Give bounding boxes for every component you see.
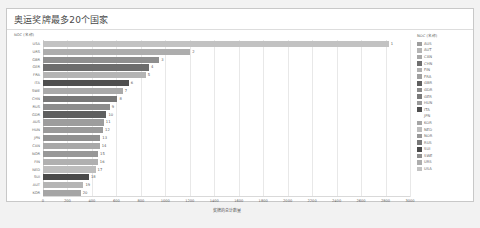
- legend-item[interactable]: NOR: [417, 133, 473, 140]
- bar-value-label: 14: [100, 144, 107, 148]
- y-tick-label: AUT: [33, 183, 40, 187]
- bar[interactable]: [43, 143, 100, 149]
- legend-item[interactable]: AUT: [417, 47, 473, 54]
- bar-row[interactable]: GER4: [43, 64, 410, 70]
- bar[interactable]: [43, 104, 110, 110]
- bar[interactable]: [43, 127, 103, 133]
- legend-items: AUSAUTCANCHNFINFRAGBRGDRGERHUNITAJPNKORN…: [417, 41, 473, 173]
- bar-row[interactable]: URS2: [43, 49, 410, 55]
- legend-item[interactable]: AUS: [417, 41, 473, 48]
- bar-value-label: 18: [89, 175, 96, 179]
- legend-item[interactable]: GER: [417, 93, 473, 100]
- bar-value-label: 1: [389, 42, 393, 46]
- bar-value-label: 17: [96, 168, 103, 172]
- bar-row[interactable]: CHN8: [43, 96, 410, 102]
- legend-item[interactable]: ITA: [417, 106, 473, 113]
- bar-row[interactable]: SUI18: [43, 174, 410, 180]
- legend-item[interactable]: CAN: [417, 54, 473, 61]
- legend-item-label: SUI: [424, 147, 430, 151]
- legend-item[interactable]: RUS: [417, 139, 473, 146]
- x-tick-label: 600: [113, 199, 120, 203]
- bar-row[interactable]: NED17: [43, 166, 410, 172]
- legend-item[interactable]: KOR: [417, 120, 473, 127]
- legend-swatch-icon: [417, 167, 422, 172]
- legend-item[interactable]: FRA: [417, 73, 473, 80]
- bar-row[interactable]: AUS11: [43, 119, 410, 125]
- y-tick-label: AUS: [33, 120, 40, 124]
- x-tick-label: 1800: [259, 199, 268, 203]
- legend-item[interactable]: SUI: [417, 146, 473, 153]
- bar-row[interactable]: FIN16: [43, 159, 410, 165]
- bar[interactable]: [43, 49, 190, 55]
- bar[interactable]: [43, 182, 83, 188]
- legend-item-label: JPN: [424, 114, 430, 118]
- legend-item-label: AUT: [424, 48, 431, 52]
- legend-item[interactable]: GDR: [417, 87, 473, 94]
- bar-row[interactable]: GDR10: [43, 111, 410, 117]
- bar-value-label: 16: [98, 160, 105, 164]
- legend-item[interactable]: NED: [417, 126, 473, 133]
- legend-item-label: GER: [424, 95, 432, 99]
- legend-swatch-icon: [417, 81, 422, 86]
- legend-item[interactable]: JPN: [417, 113, 473, 120]
- legend-swatch-icon: [417, 42, 422, 47]
- bar[interactable]: [43, 96, 117, 102]
- x-axis-ticks: 0200400600800100012001400160018002000220…: [43, 199, 410, 207]
- legend-item[interactable]: URS: [417, 159, 473, 166]
- y-tick-label: CHN: [32, 97, 40, 101]
- legend-item-label: FIN: [424, 68, 430, 72]
- legend-item-label: FRA: [424, 75, 431, 79]
- legend-item[interactable]: USA: [417, 166, 473, 173]
- bar[interactable]: [43, 72, 146, 78]
- y-tick-label: CAN: [32, 144, 40, 148]
- bar[interactable]: [43, 64, 149, 70]
- y-tick-label: HUN: [32, 128, 40, 132]
- x-tick-label: 1000: [161, 199, 170, 203]
- bar-row[interactable]: GBR3: [43, 57, 410, 63]
- bar[interactable]: [43, 135, 100, 141]
- legend-item-label: GDR: [424, 88, 432, 92]
- legend: NOC (名称) AUSAUTCANCHNFINFRAGBRGDRGERHUNI…: [417, 33, 473, 172]
- bar-row[interactable]: NOR15: [43, 151, 410, 157]
- y-tick-label: GBR: [32, 58, 40, 62]
- legend-item[interactable]: GBR: [417, 80, 473, 87]
- bar-row[interactable]: SWE7: [43, 88, 410, 94]
- bar-value-label: 12: [103, 128, 110, 132]
- legend-item-label: KOR: [424, 121, 432, 125]
- bar-row[interactable]: HUN12: [43, 127, 410, 133]
- bar[interactable]: [43, 57, 159, 63]
- legend-item[interactable]: SWE: [417, 153, 473, 160]
- x-tick-label: 2600: [356, 199, 365, 203]
- bar[interactable]: [43, 119, 104, 125]
- bar[interactable]: [43, 174, 89, 180]
- x-tick-label: 200: [64, 199, 71, 203]
- legend-item-label: USA: [424, 167, 432, 171]
- plot-area: USA1URS2GBR3GER4FRA5ITA6SWE7CHN8RUS9GDR1…: [43, 40, 410, 197]
- bar[interactable]: [43, 151, 98, 157]
- x-tick-label: 2000: [283, 199, 292, 203]
- bar[interactable]: [43, 111, 106, 117]
- title-divider: [7, 29, 473, 30]
- bar-row[interactable]: ITA6: [43, 80, 410, 86]
- bar-row[interactable]: FRA5: [43, 72, 410, 78]
- bar[interactable]: [43, 41, 389, 47]
- bar-row[interactable]: AUT19: [43, 182, 410, 188]
- legend-swatch-icon: [417, 94, 422, 99]
- bar-row[interactable]: JPN13: [43, 135, 410, 141]
- legend-title: NOC (名称): [417, 33, 473, 38]
- bar-row[interactable]: RUS9: [43, 104, 410, 110]
- x-tick-label: 2200: [308, 199, 317, 203]
- legend-item[interactable]: CHN: [417, 60, 473, 67]
- legend-item[interactable]: HUN: [417, 100, 473, 107]
- bar[interactable]: [43, 88, 123, 94]
- legend-item-label: CAN: [424, 55, 432, 59]
- bar-row[interactable]: CAN14: [43, 143, 410, 149]
- legend-item[interactable]: FIN: [417, 67, 473, 74]
- bar[interactable]: [43, 166, 96, 172]
- y-tick-label: FRA: [33, 73, 40, 77]
- bar[interactable]: [43, 80, 129, 86]
- chart-card: 奥运奖牌最多20个国家 NOC (名称) USA1URS2GBR3GER4FRA…: [6, 8, 474, 202]
- y-tick-label: KOR: [33, 191, 41, 195]
- bar-row[interactable]: USA1: [43, 41, 410, 47]
- bar[interactable]: [43, 159, 98, 165]
